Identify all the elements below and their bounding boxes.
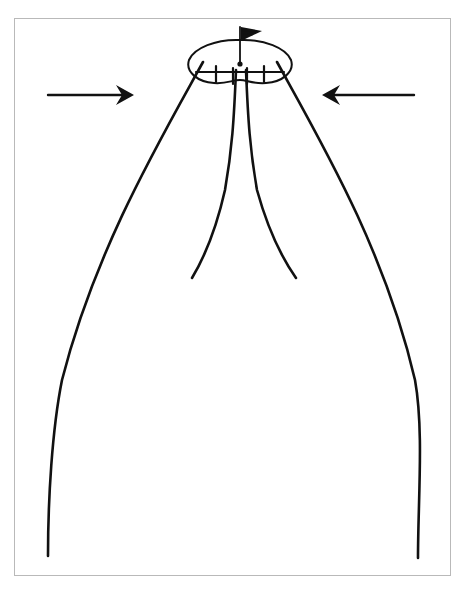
canopy-apex-dot xyxy=(237,61,242,66)
shroud-line-inner-left xyxy=(192,70,236,278)
figure-page xyxy=(0,0,468,596)
parachute-diagram xyxy=(0,0,468,596)
shroud-line-outer-right xyxy=(277,62,420,558)
shroud-line-inner-right xyxy=(246,70,296,278)
shroud-line-outer-left xyxy=(48,62,203,556)
